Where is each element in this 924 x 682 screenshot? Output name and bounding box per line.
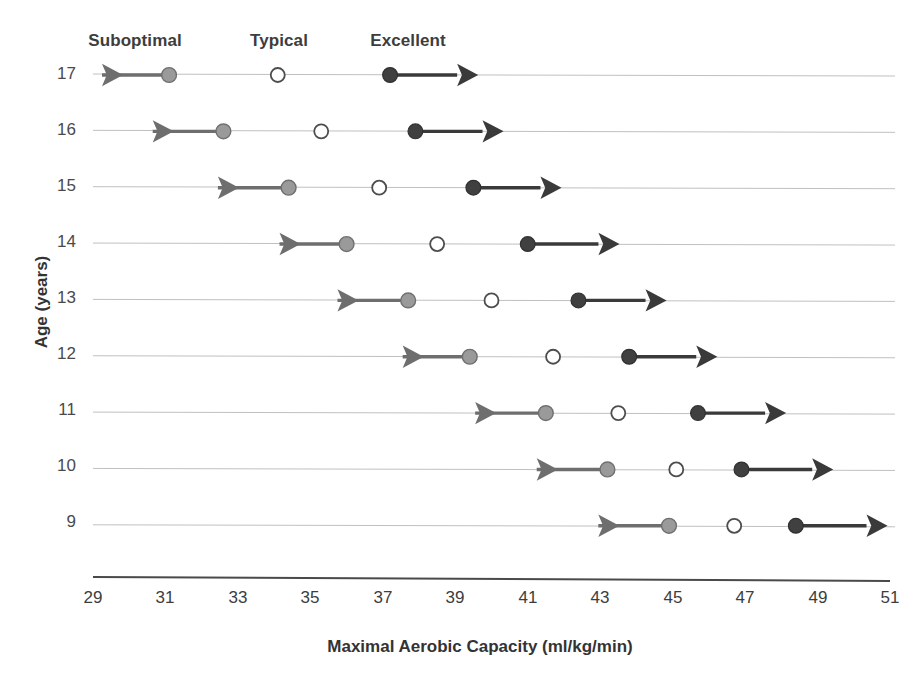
chart-row bbox=[93, 180, 895, 195]
row-baseline bbox=[93, 356, 895, 358]
typical-marker bbox=[372, 181, 386, 195]
excellent-marker bbox=[466, 180, 481, 195]
excellent-marker bbox=[622, 349, 637, 364]
chart-container: Suboptimal Typical Excellent 17 16 15 14… bbox=[0, 0, 924, 682]
suboptimal-marker bbox=[600, 462, 615, 477]
excellent-marker bbox=[734, 462, 749, 477]
excellent-marker bbox=[691, 406, 706, 421]
typical-marker bbox=[430, 237, 444, 251]
chart-row bbox=[93, 68, 895, 83]
chart-row bbox=[93, 124, 895, 139]
excellent-marker bbox=[788, 518, 803, 533]
suboptimal-marker bbox=[216, 124, 231, 139]
suboptimal-marker bbox=[281, 180, 296, 195]
suboptimal-marker bbox=[401, 293, 416, 308]
typical-marker bbox=[271, 68, 285, 82]
chart-row bbox=[93, 293, 895, 308]
excellent-marker bbox=[408, 124, 423, 139]
typical-marker bbox=[669, 462, 683, 476]
chart-row bbox=[93, 462, 895, 477]
typical-marker bbox=[485, 293, 499, 307]
row-baseline bbox=[93, 525, 895, 527]
suboptimal-marker bbox=[538, 406, 553, 421]
excellent-marker bbox=[383, 68, 398, 83]
typical-marker bbox=[314, 124, 328, 138]
typical-marker bbox=[546, 350, 560, 364]
suboptimal-marker bbox=[339, 237, 354, 252]
chart-row bbox=[93, 518, 895, 533]
suboptimal-marker bbox=[662, 518, 677, 533]
excellent-marker bbox=[520, 237, 535, 252]
suboptimal-marker bbox=[162, 68, 177, 83]
typical-marker bbox=[727, 519, 741, 533]
chart-row bbox=[93, 349, 895, 364]
chart-row bbox=[93, 237, 895, 252]
chart-row bbox=[93, 406, 895, 421]
row-baseline bbox=[93, 74, 895, 76]
typical-marker bbox=[611, 406, 625, 420]
x-axis-line bbox=[93, 577, 890, 581]
row-baseline bbox=[93, 243, 895, 245]
suboptimal-marker bbox=[462, 349, 477, 364]
plot-area bbox=[0, 0, 924, 682]
excellent-marker bbox=[571, 293, 586, 308]
